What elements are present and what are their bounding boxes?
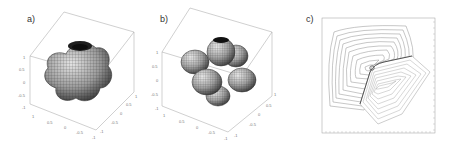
svg-text:-1: -1 (155, 106, 159, 111)
svg-text:0: 0 (196, 125, 199, 130)
svg-text:-0.5: -0.5 (18, 93, 26, 98)
z-axis-ticks: 1 0.5 0 -0.5 -1 (18, 55, 26, 110)
x-axis-ticks: 1 0.5 0 -0.5 -1 (32, 114, 96, 140)
x-axis-ticks: 1 0.5 0 -0.5 -1 (163, 113, 228, 141)
panel-c: c) (300, 0, 453, 144)
panel-b: b) (150, 0, 300, 144)
z-axis-ticks: 1 0.5 0 -0.5 -1 (151, 50, 159, 111)
svg-text:-1: -1 (22, 105, 26, 110)
lobed-surface (45, 41, 112, 101)
svg-text:1: 1 (135, 94, 138, 99)
svg-text:-1: -1 (234, 133, 238, 138)
svg-text:0.5: 0.5 (47, 120, 53, 125)
y-axis-ticks: 1 0.5 0 -0.5 -1 (100, 94, 138, 134)
svg-text:0: 0 (156, 78, 159, 83)
svg-text:0.5: 0.5 (179, 119, 185, 124)
panel-b-surface-plot: 1 0.5 0 -0.5 -1 1 0.5 0 -0.5 -1 1 0.5 0 … (150, 0, 300, 144)
svg-text:0.5: 0.5 (126, 102, 132, 107)
svg-text:0.5: 0.5 (266, 103, 272, 108)
panel-a-surface-plot: 1 0.5 0 -0.5 -1 1 0.5 0 -0.5 -1 1 0.5 0 … (0, 0, 150, 144)
svg-text:-0.5: -0.5 (111, 120, 119, 125)
svg-text:1: 1 (156, 50, 159, 55)
svg-text:1: 1 (274, 92, 277, 97)
y-axis-ticks: 1 0.5 0 -0.5 -1 (234, 92, 277, 138)
flower-lobes-surface (181, 37, 256, 106)
svg-text:-1: -1 (92, 135, 96, 140)
svg-text:1: 1 (163, 113, 166, 118)
svg-text:0: 0 (258, 112, 261, 117)
svg-text:1: 1 (23, 55, 26, 60)
svg-text:-0.5: -0.5 (208, 130, 216, 135)
svg-text:0: 0 (120, 111, 123, 116)
svg-text:-0.5: -0.5 (249, 122, 257, 127)
svg-text:-1: -1 (100, 129, 104, 134)
svg-text:1: 1 (32, 114, 35, 119)
svg-text:0: 0 (23, 80, 26, 85)
bounding-box (162, 8, 272, 132)
panel-c-contour-plot (300, 0, 453, 144)
svg-text:-0.5: -0.5 (151, 92, 159, 97)
svg-text:0.5: 0.5 (152, 64, 158, 69)
svg-text:-1: -1 (224, 136, 228, 141)
svg-text:-0.5: -0.5 (76, 130, 84, 135)
svg-text:0.5: 0.5 (19, 67, 25, 72)
panel-a: a) 1 0.5 (0, 0, 150, 144)
svg-text:0: 0 (64, 125, 67, 130)
